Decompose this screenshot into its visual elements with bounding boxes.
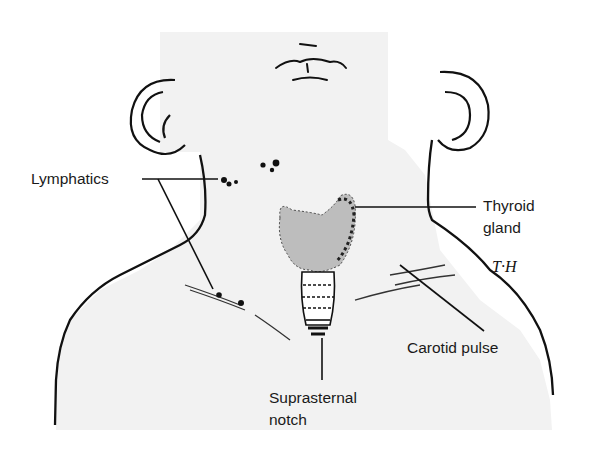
neck-anatomy-diagram: T·H Lymphatics Thyroid gland Carotid pul… (0, 0, 601, 463)
artist-initials: T·H (492, 258, 518, 275)
label-lymphatics: Lymphatics (31, 169, 109, 188)
label-suprasternal-line1: Suprasternal (269, 388, 357, 407)
label-suprasternal-line2: notch (269, 410, 307, 429)
label-thyroid-line2: gland (483, 218, 521, 237)
label-thyroid-line1: Thyroid (483, 196, 535, 215)
trachea (302, 272, 335, 334)
label-carotid-pulse: Carotid pulse (407, 338, 498, 357)
right-ear (438, 72, 489, 150)
